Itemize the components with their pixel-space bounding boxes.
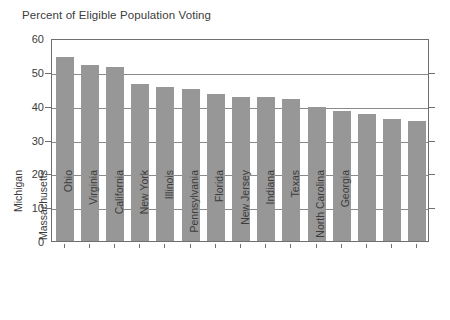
x-axis-tick-label: Indiana (265, 170, 276, 250)
x-axis-tick-label: Florida (214, 170, 225, 250)
chart-title: Percent of Eligible Population Voting (22, 8, 211, 22)
x-axis-tick-label: California (114, 170, 125, 250)
x-axis-tick-label: Massachusetts (38, 170, 49, 250)
x-axis-tick-label: Virginia (88, 170, 99, 250)
x-axis-tick-label: Georgia (340, 170, 351, 250)
bar-chart: Percent of Eligible Population Voting 01… (0, 0, 450, 320)
bar (383, 119, 401, 241)
x-axis-tick-label: North Carolina (315, 170, 326, 250)
bar (408, 121, 426, 241)
x-axis-tick-label: Pennsylvania (189, 170, 200, 250)
x-axis-tick-label: Michigan (13, 170, 24, 250)
y-axis-tick-mark-right (429, 208, 435, 209)
y-axis-tick-mark-right (429, 73, 435, 74)
x-axis-tick-mark (391, 244, 392, 248)
y-axis-tick-mark-right (429, 174, 435, 175)
x-axis-tick-label: Texas (290, 170, 301, 250)
x-axis-tick-label: New Jersey (240, 170, 251, 250)
x-axis-tick-mark (366, 244, 367, 248)
x-axis-tick-label: Illinois (164, 170, 175, 250)
y-axis-tick-mark-right (429, 107, 435, 108)
bar (358, 114, 376, 241)
x-axis-tick-mark (416, 244, 417, 248)
y-axis-tick-mark-right (429, 141, 435, 142)
x-axis-tick-label: New York (139, 170, 150, 250)
x-axis-labels: MissouriMichiganMassachusettsOhioVirgini… (51, 244, 429, 320)
x-axis-tick-label: Ohio (63, 170, 74, 250)
